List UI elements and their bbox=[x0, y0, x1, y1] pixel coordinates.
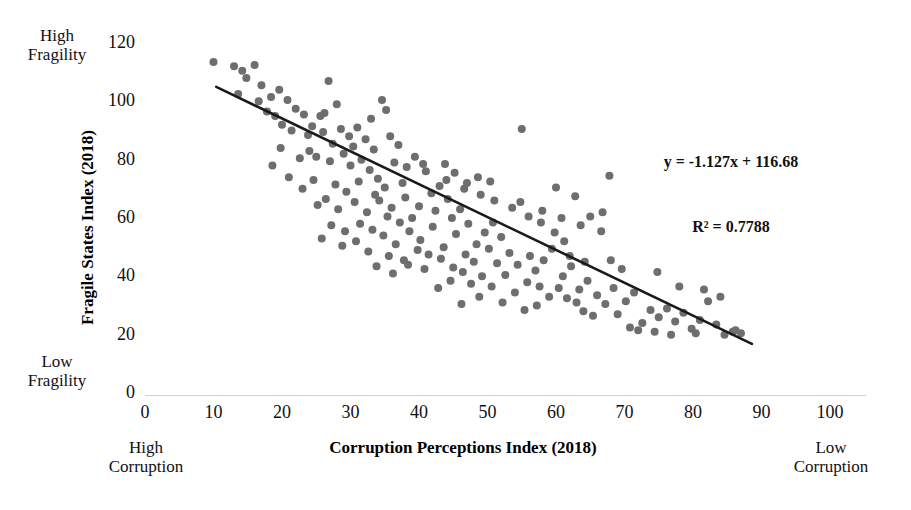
scatter-point bbox=[373, 262, 381, 270]
x-axis-right-label-line2: Corruption bbox=[794, 457, 869, 476]
scatter-point bbox=[320, 109, 328, 117]
scatter-point bbox=[555, 284, 563, 292]
scatter-point bbox=[638, 319, 646, 327]
scatter-point bbox=[355, 178, 363, 186]
scatter-point bbox=[414, 246, 422, 254]
scatter-point bbox=[356, 220, 364, 228]
scatter-point bbox=[440, 243, 448, 251]
scatter-point bbox=[575, 285, 583, 293]
scatter-point bbox=[536, 283, 544, 291]
scatter-point bbox=[448, 214, 456, 222]
scatter-point bbox=[692, 329, 700, 337]
scatter-point bbox=[341, 227, 349, 235]
scatter-point bbox=[285, 173, 293, 181]
scatter-point bbox=[490, 197, 498, 205]
y-tick-label: 40 bbox=[89, 265, 135, 285]
scatter-point bbox=[327, 221, 335, 229]
scatter-point bbox=[655, 313, 663, 321]
scatter-point bbox=[675, 283, 683, 291]
scatter-point bbox=[268, 162, 276, 170]
scatter-point bbox=[497, 233, 505, 241]
scatter-point bbox=[501, 271, 509, 279]
scatter-point bbox=[563, 294, 571, 302]
scatter-point bbox=[434, 284, 442, 292]
scatter-chart-figure: HighFragility LowFragility HighCorruptio… bbox=[0, 0, 911, 510]
y-axis-low-label-line2: Fragility bbox=[28, 371, 87, 390]
scatter-point bbox=[516, 198, 524, 206]
scatter-point bbox=[325, 77, 333, 85]
scatter-point bbox=[505, 249, 513, 257]
scatter-point bbox=[392, 240, 400, 248]
scatter-point bbox=[499, 299, 507, 307]
scatter-point bbox=[557, 214, 565, 222]
scatter-point bbox=[381, 183, 389, 191]
scatter-point bbox=[605, 172, 613, 180]
scatter-point bbox=[584, 277, 592, 285]
scatter-point bbox=[577, 221, 585, 229]
scatter-point bbox=[634, 326, 642, 334]
scatter-point bbox=[390, 159, 398, 167]
y-tick-label: 20 bbox=[89, 324, 135, 344]
scatter-point bbox=[447, 277, 455, 285]
scatter-point bbox=[340, 150, 348, 158]
x-tick-label: 80 bbox=[670, 402, 716, 422]
scatter-point bbox=[459, 268, 467, 276]
scatter-point bbox=[364, 248, 372, 256]
scatter-point bbox=[540, 256, 548, 264]
scatter-point bbox=[704, 297, 712, 305]
scatter-point bbox=[389, 269, 397, 277]
scatter-point bbox=[275, 86, 283, 94]
y-tick-label: 60 bbox=[89, 207, 135, 227]
scatter-point bbox=[470, 258, 478, 266]
scatter-point bbox=[375, 197, 383, 205]
scatter-point bbox=[478, 272, 486, 280]
scatter-point bbox=[305, 147, 313, 155]
y-axis-high-label-line2: Fragility bbox=[28, 45, 87, 64]
scatter-point bbox=[382, 106, 390, 114]
scatter-point bbox=[370, 145, 378, 153]
scatter-point bbox=[396, 218, 404, 226]
scatter-point bbox=[593, 291, 601, 299]
scatter-point bbox=[342, 188, 350, 196]
scatter-point bbox=[404, 261, 412, 269]
scatter-point bbox=[520, 306, 528, 314]
scatter-point bbox=[251, 61, 259, 69]
x-tick-label: 70 bbox=[602, 402, 648, 422]
scatter-point bbox=[486, 178, 494, 186]
scatter-point bbox=[481, 229, 489, 237]
scatter-point bbox=[436, 182, 444, 190]
scatter-point bbox=[464, 220, 472, 228]
scatter-point bbox=[277, 144, 285, 152]
scatter-point bbox=[474, 173, 482, 181]
x-tick-label: 0 bbox=[122, 402, 168, 422]
scatter-point bbox=[571, 192, 579, 200]
scatter-point bbox=[451, 169, 459, 177]
scatter-point bbox=[457, 300, 465, 308]
scatter-point bbox=[420, 265, 428, 273]
scatter-point bbox=[716, 293, 724, 301]
x-axis-left-label: HighCorruption bbox=[104, 438, 188, 476]
scatter-point bbox=[230, 62, 238, 70]
scatter-point bbox=[394, 141, 402, 149]
scatter-point bbox=[559, 272, 567, 280]
scatter-point bbox=[347, 162, 355, 170]
scatter-point bbox=[473, 240, 481, 248]
scatter-point bbox=[257, 81, 265, 89]
scatter-point bbox=[422, 167, 430, 175]
scatter-point bbox=[437, 255, 445, 263]
scatter-point bbox=[368, 226, 376, 234]
scatter-point bbox=[514, 261, 522, 269]
scatter-point bbox=[419, 160, 427, 168]
scatter-point bbox=[378, 96, 386, 104]
scatter-point bbox=[367, 115, 375, 123]
scatter-point bbox=[333, 100, 341, 108]
scatter-point bbox=[601, 300, 609, 308]
scatter-point bbox=[614, 310, 622, 318]
scatter-point bbox=[449, 264, 457, 272]
scatter-point bbox=[579, 307, 587, 315]
scatter-point bbox=[525, 213, 533, 221]
scatter-point bbox=[460, 185, 468, 193]
y-axis-low-label: LowFragility bbox=[16, 352, 98, 390]
regression-annotation: y = -1.127x + 116.68 R² = 0.7788 bbox=[620, 108, 842, 281]
scatter-point bbox=[622, 297, 630, 305]
